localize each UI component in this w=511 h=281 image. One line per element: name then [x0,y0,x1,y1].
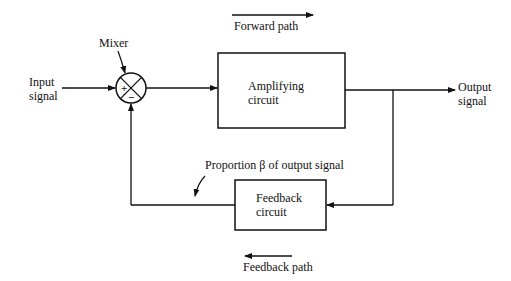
feedback-path-label: Feedback path [243,260,313,274]
mixer-pointer-arrow [118,51,125,73]
amplifier-label-line2: circuit [248,93,279,107]
amplifier-label-line1: Amplifying [248,79,304,93]
input-label-line2: signal [29,89,58,103]
forward-path-label: Forward path [234,19,298,33]
mixer-minus-sign: − [128,90,134,104]
output-label-line1: Output [458,80,491,94]
feedback-label-line2: circuit [256,205,287,219]
mixer-label: Mixer [99,36,128,50]
proportion-pointer-arrow [195,176,205,196]
feedback-label-line1: Feedback [256,191,302,205]
diagram-canvas [0,0,511,281]
proportion-label: Proportion β of output signal [205,158,344,172]
mixer-plus-sign: + [121,81,127,95]
input-label-line1: Input [29,75,54,89]
output-label-line2: signal [458,94,487,108]
